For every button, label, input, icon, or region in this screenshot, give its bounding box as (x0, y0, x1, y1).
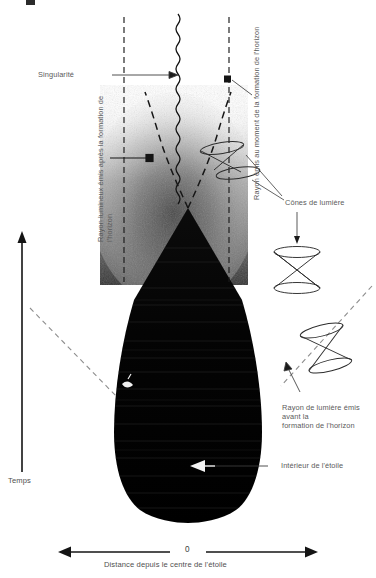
ray-before-horizon-line-2: formation de l'horizon (282, 421, 355, 430)
light-cone-upper (274, 212, 320, 294)
star-interior-label: Intérieur de l'étoile (281, 461, 343, 470)
ray-before-horizon-line-1: Rayon de lumière émis avant la (282, 403, 360, 421)
time-axis-label: Temps (8, 476, 31, 485)
singularite-label: Singularité (38, 70, 74, 79)
distance-axis-label: Distance depuis le centre de l'étoile (104, 560, 227, 569)
light-cones-label: Cônes de lumière (285, 198, 345, 207)
distance-axis-origin: 0 (185, 545, 190, 554)
ray-before-horizon-label: Rayon de lumière émis avant la formation… (282, 403, 376, 431)
ray-before-horizon-leader (284, 362, 300, 392)
light-ray-before-horizon-left (30, 308, 118, 398)
spacetime-diagram-figure: Singularité Rayon lumineux émis après la… (0, 0, 376, 578)
ray-after-horizon-label: Rayon lumineux émis après la formation d… (96, 72, 115, 242)
ray-at-horizon-label: Rayon émis au moment de la formation de … (252, 15, 261, 200)
singularite-leader (112, 72, 178, 79)
light-ray-before-horizon-right (281, 286, 372, 386)
light-cone-lower (299, 320, 353, 376)
diagram-canvas (0, 0, 376, 578)
time-axis-arrow (18, 231, 27, 472)
